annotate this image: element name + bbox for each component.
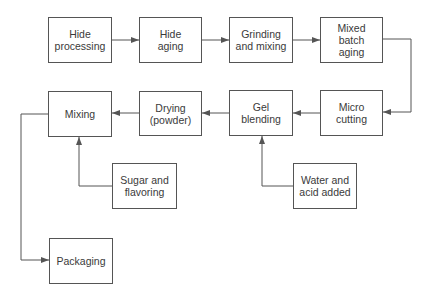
node-packaging: Packaging	[49, 238, 113, 284]
node-mixed-batch-aging: Mixed batch aging	[320, 17, 383, 63]
node-label: Drying (powder)	[150, 102, 191, 126]
node-gel-blending: Gel blending	[229, 90, 293, 136]
node-label: Water and acid added	[299, 174, 350, 198]
node-sugar-and-flavoring: Sugar and flavoring	[112, 163, 177, 209]
node-mixing: Mixing	[48, 91, 112, 137]
arrow-sugar-to-mixing	[79, 137, 112, 186]
node-label: Mixed batch aging	[337, 22, 365, 58]
arrow-water-to-gel-blending	[262, 136, 293, 186]
node-grinding-and-mixing: Grinding and mixing	[229, 17, 293, 63]
node-micro-cutting: Micro cutting	[320, 90, 383, 136]
node-drying-powder: Drying (powder)	[139, 91, 202, 136]
process-flow-diagram: Hide processing Hide aging Grinding and …	[0, 0, 436, 300]
node-label: Micro cutting	[336, 101, 367, 125]
arrow-mixing-to-packaging	[21, 114, 49, 260]
node-hide-aging: Hide aging	[139, 17, 202, 63]
node-hide-processing: Hide processing	[48, 17, 112, 63]
node-label: Grinding and mixing	[236, 28, 287, 52]
node-label: Mixing	[65, 108, 95, 120]
node-label: Packaging	[56, 255, 105, 267]
arrow-mixed-batch-to-micro-cutting	[383, 39, 411, 112]
node-label: Gel blending	[241, 101, 281, 125]
node-label: Hide processing	[55, 28, 106, 52]
node-label: Hide aging	[158, 28, 184, 52]
node-water-and-acid-added: Water and acid added	[293, 163, 357, 209]
node-label: Sugar and flavoring	[120, 174, 168, 198]
